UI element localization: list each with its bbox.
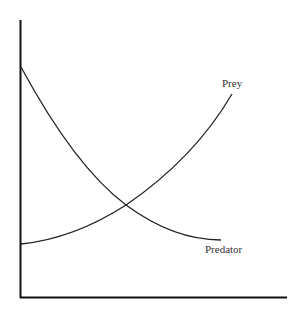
predator-label: Predator xyxy=(205,243,243,255)
chart: Prey Predator xyxy=(0,0,302,313)
predator-curve xyxy=(21,67,221,240)
prey-curve xyxy=(21,94,232,244)
prey-label: Prey xyxy=(222,77,243,89)
